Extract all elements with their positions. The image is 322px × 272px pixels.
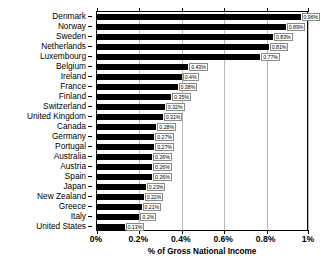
bar-value-label: 0.77% <box>261 53 280 61</box>
category-label: Switzerland <box>43 102 86 111</box>
bar-row: 0.28% <box>97 122 307 132</box>
bar-row: 0.22% <box>97 192 307 202</box>
category-tick <box>88 226 92 227</box>
bar-row: 0.21% <box>97 202 307 212</box>
category-label: Australia <box>54 152 86 161</box>
bar <box>97 154 152 160</box>
bar-value-label: 0.22% <box>145 193 164 201</box>
bar-row: 0.13% <box>97 222 307 232</box>
bar-row: 0.26% <box>97 172 307 182</box>
x-axis-label: % of Gross National Income <box>96 247 308 257</box>
category-label: United States <box>36 222 86 231</box>
x-tick-label: 0% <box>90 234 102 244</box>
bar-value-label: 0.27% <box>155 143 174 151</box>
bar <box>97 104 165 110</box>
bar-row: 0.32% <box>97 102 307 112</box>
bar-value-label: 0.28% <box>157 123 176 131</box>
bar-chart: DenmarkNorwaySwedenNetherlandsLuxembourg… <box>0 0 322 272</box>
bar <box>97 84 178 90</box>
bar <box>97 24 286 30</box>
category-tick <box>88 136 92 137</box>
bar <box>97 94 171 100</box>
bar-row: 0.23% <box>97 182 307 192</box>
bar <box>97 184 146 190</box>
bar-series: 0.96%0.89%0.83%0.81%0.77%0.43%0.4%0.38%0… <box>97 12 307 230</box>
x-tick-label: 0.4% <box>171 234 191 244</box>
category-label: Denmark <box>52 12 86 21</box>
category-label: Spain <box>65 172 86 181</box>
category-tick <box>88 216 92 217</box>
category-label: France <box>60 82 86 91</box>
bar-value-label: 0.96% <box>302 13 321 21</box>
bar-value-label: 0.23% <box>147 183 166 191</box>
category-tick <box>88 166 92 167</box>
bar <box>97 134 154 140</box>
bar-value-label: 0.26% <box>153 163 172 171</box>
category-label: Italy <box>71 212 86 221</box>
bar-row: 0.43% <box>97 62 307 72</box>
bar <box>97 14 301 20</box>
bar-value-label: 0.31% <box>164 113 183 121</box>
bar <box>97 174 152 180</box>
category-tick <box>88 126 92 127</box>
bar <box>97 114 163 120</box>
category-label: Norway <box>58 22 86 31</box>
category-tick <box>88 106 92 107</box>
bar-row: 0.77% <box>97 52 307 62</box>
category-label: New Zealand <box>37 192 86 201</box>
category-label: Portugal <box>55 142 86 151</box>
bar <box>97 164 152 170</box>
bar <box>97 64 188 70</box>
x-axis-tick-labels: 0%0.2%0.4%0.6%0.8%1% <box>0 234 322 246</box>
bar-value-label: 0.43% <box>189 63 208 71</box>
bar-row: 0.27% <box>97 132 307 142</box>
category-label: Ireland <box>61 72 86 81</box>
bar-value-label: 0.83% <box>274 33 293 41</box>
bar <box>97 144 154 150</box>
bar <box>97 214 139 220</box>
bar <box>97 44 269 50</box>
category-tick <box>88 16 92 17</box>
category-tick <box>88 76 92 77</box>
bar-value-label: 0.81% <box>270 43 289 51</box>
bar-value-label: 0.26% <box>153 173 172 181</box>
category-label: Germany <box>52 132 86 141</box>
bar-value-label: 0.27% <box>155 133 174 141</box>
category-tick <box>88 86 92 87</box>
category-label: Finland <box>59 92 86 101</box>
category-label: Greece <box>59 202 86 211</box>
category-tick <box>88 156 92 157</box>
bar-value-label: 0.38% <box>179 83 198 91</box>
category-label: Sweden <box>56 32 86 41</box>
x-tick-label: 0.8% <box>256 234 276 244</box>
category-label: Netherlands <box>41 42 86 51</box>
gridline <box>308 12 309 230</box>
bar-value-label: 0.21% <box>143 203 162 211</box>
bar-row: 0.83% <box>97 32 307 42</box>
category-label: Luxembourg <box>40 52 86 61</box>
bar <box>97 34 273 40</box>
bar-row: 0.26% <box>97 152 307 162</box>
x-tick-label: 0.6% <box>213 234 233 244</box>
bar-row: 0.89% <box>97 22 307 32</box>
x-tick-label: 1% <box>302 234 314 244</box>
category-label: Austria <box>60 162 86 171</box>
category-tick <box>88 176 92 177</box>
category-tick <box>88 66 92 67</box>
x-tick-label: 0.2% <box>129 234 149 244</box>
bar <box>97 204 142 210</box>
bar <box>97 194 144 200</box>
plot-area: 0.96%0.89%0.83%0.81%0.77%0.43%0.4%0.38%0… <box>96 11 308 231</box>
bar <box>97 54 260 60</box>
category-axis: DenmarkNorwaySwedenNetherlandsLuxembourg… <box>0 11 92 231</box>
category-tick <box>88 146 92 147</box>
category-tick <box>88 206 92 207</box>
bar-row: 0.27% <box>97 142 307 152</box>
category-tick <box>88 186 92 187</box>
category-tick <box>88 46 92 47</box>
bar <box>97 124 156 130</box>
bar-row: 0.35% <box>97 92 307 102</box>
bar-value-label: 0.4% <box>183 73 199 81</box>
bar <box>97 224 125 230</box>
bar-row: 0.31% <box>97 112 307 122</box>
